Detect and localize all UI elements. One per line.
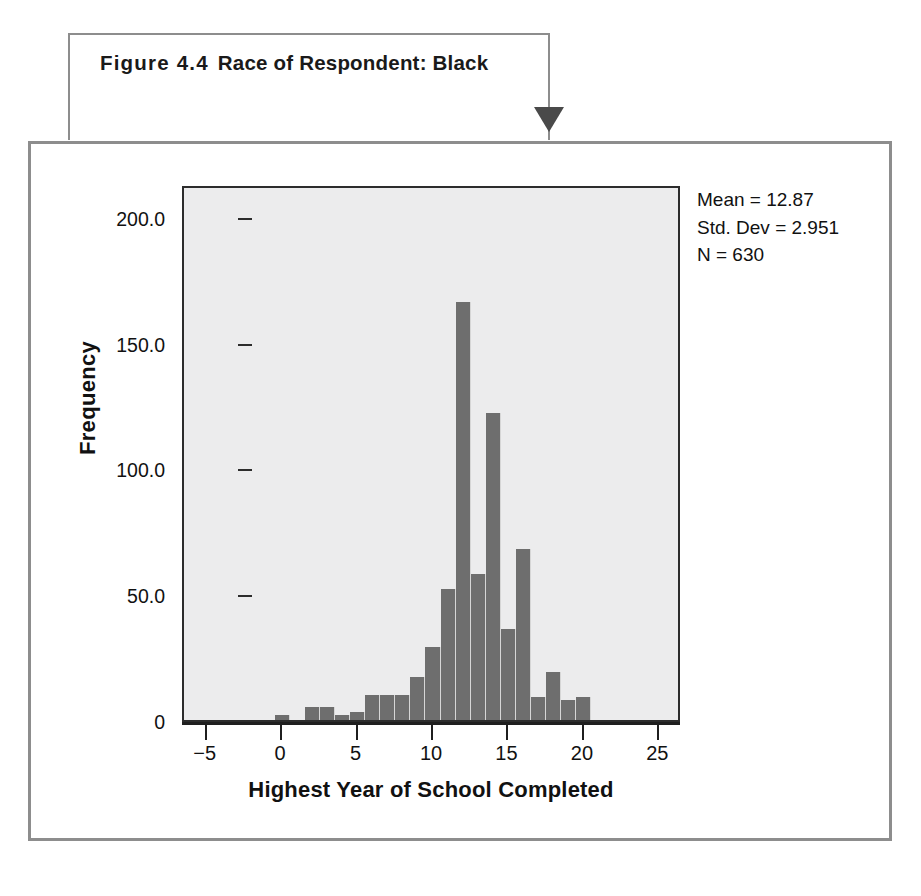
x-axis-tick-label: 15	[471, 742, 541, 765]
y-axis-tick-label: 200.0	[75, 207, 165, 230]
x-axis-tick-label: 25	[622, 742, 692, 765]
histogram-bar	[425, 647, 440, 720]
figure-number: Figure 4.4	[100, 51, 209, 74]
figure-caption: Race of Respondent: Black	[218, 51, 488, 74]
histogram-bar	[456, 302, 471, 720]
y-axis-title: Frequency	[75, 308, 101, 488]
stat-n: N = 630	[697, 241, 839, 269]
x-axis-tick-label: 20	[547, 742, 617, 765]
y-axis-tick-mark	[238, 344, 252, 346]
histogram-bar	[501, 629, 516, 720]
x-axis-tick-mark	[657, 725, 659, 740]
histogram-bar	[576, 697, 591, 720]
histogram-bars	[184, 188, 678, 720]
x-axis-tick-mark	[506, 725, 508, 740]
x-axis-tick-mark	[431, 725, 433, 740]
histogram-bar	[380, 695, 395, 720]
histogram-bar	[305, 707, 320, 720]
histogram-bar	[531, 697, 546, 720]
statistics-annotation: Mean = 12.87 Std. Dev = 2.951 N = 630	[697, 186, 839, 269]
y-axis-tick-label: 0	[75, 711, 165, 734]
histogram-bar	[395, 695, 410, 720]
x-axis-tick-label: −5	[170, 742, 240, 765]
histogram-bar	[471, 574, 486, 720]
histogram-bar	[335, 715, 350, 720]
down-arrow-icon	[534, 107, 564, 132]
x-axis-tick-mark	[280, 725, 282, 740]
y-axis-tick-mark	[238, 469, 252, 471]
x-axis-tick-mark	[582, 725, 584, 740]
x-axis-tick-label: 0	[245, 742, 315, 765]
histogram-bar	[365, 695, 380, 720]
stat-mean: Mean = 12.87	[697, 186, 839, 214]
stat-std-dev: Std. Dev = 2.951	[697, 214, 839, 242]
x-axis-tick-mark	[356, 725, 358, 740]
histogram-bar	[350, 712, 365, 720]
x-axis-title: Highest Year of School Completed	[182, 777, 680, 803]
y-axis-tick-mark	[238, 218, 252, 220]
histogram-bar	[410, 677, 425, 720]
histogram-bar	[546, 672, 561, 720]
histogram-bar	[275, 715, 290, 720]
histogram-bar	[320, 707, 335, 720]
x-axis-tick-mark	[205, 725, 207, 740]
histogram-plot-area	[182, 186, 680, 722]
x-axis-tick-label: 10	[396, 742, 466, 765]
histogram-bar	[441, 589, 456, 720]
histogram-bar	[561, 700, 576, 720]
y-axis-tick-label: 50.0	[75, 585, 165, 608]
page-title: Figure 4.4Race of Respondent: Black	[100, 48, 530, 77]
histogram-bar	[486, 413, 501, 720]
x-axis-tick-label: 5	[321, 742, 391, 765]
y-axis-tick-mark	[238, 595, 252, 597]
histogram-bar	[516, 549, 531, 720]
